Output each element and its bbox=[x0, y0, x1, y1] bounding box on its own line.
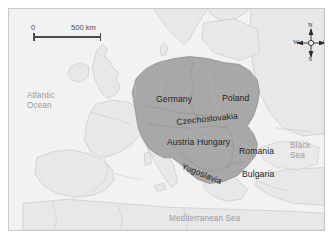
map-figure: 0 500 km N S W E AtlanticOceanBlackSeaMe… bbox=[8, 8, 325, 231]
scale-bar-distance-label: 500 km bbox=[71, 23, 96, 32]
scale-bar-zero-label: 0 bbox=[31, 23, 35, 32]
scale-bar: 0 500 km bbox=[31, 23, 111, 45]
compass-south-label: S bbox=[309, 55, 313, 62]
compass-rose: N S W E bbox=[292, 22, 325, 64]
compass-west-label: W bbox=[293, 38, 299, 45]
compass-north-label: N bbox=[308, 21, 313, 28]
sardinia-land bbox=[144, 152, 151, 166]
compass-east-label: E bbox=[323, 38, 325, 45]
scale-bar-line bbox=[33, 36, 101, 38]
